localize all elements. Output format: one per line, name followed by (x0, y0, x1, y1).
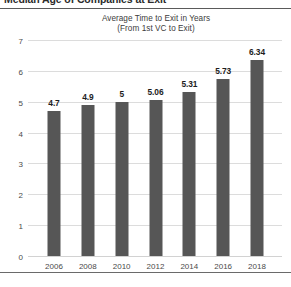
y-axis-tick-label: 1 (19, 222, 23, 231)
bar-chart: Average Time to Exit in Years (From 1st … (0, 10, 291, 270)
y-axis-tick-label: 4 (19, 129, 23, 138)
y-axis-tick-label: 2 (19, 191, 23, 200)
bottom-divider (0, 272, 291, 273)
y-axis-tick-label: 7 (19, 37, 23, 46)
y-axis-tick-label: 6 (19, 67, 23, 76)
top-divider (0, 8, 291, 9)
y-axis-tick-label: 0 (19, 253, 23, 262)
x-axis-tick-label: 2012 (139, 262, 173, 271)
x-axis-tick-label: 2008 (71, 262, 105, 271)
x-axis-tick-label: 2006 (37, 262, 71, 271)
y-axis-tick-label: 3 (19, 160, 23, 169)
x-axis-tick-label: 2018 (240, 262, 274, 271)
x-axis-tick-label: 2010 (105, 262, 139, 271)
y-axis-tick-label: 5 (19, 98, 23, 107)
x-axis-tick-label: 2014 (172, 262, 206, 271)
x-axis: 2006200820102012201420162018 (28, 10, 282, 270)
x-axis-tick-label: 2016 (206, 262, 240, 271)
chart-page: Median Age of Companies at Exit Average … (0, 0, 291, 287)
clipped-document-heading: Median Age of Companies at Exit (4, 0, 287, 5)
